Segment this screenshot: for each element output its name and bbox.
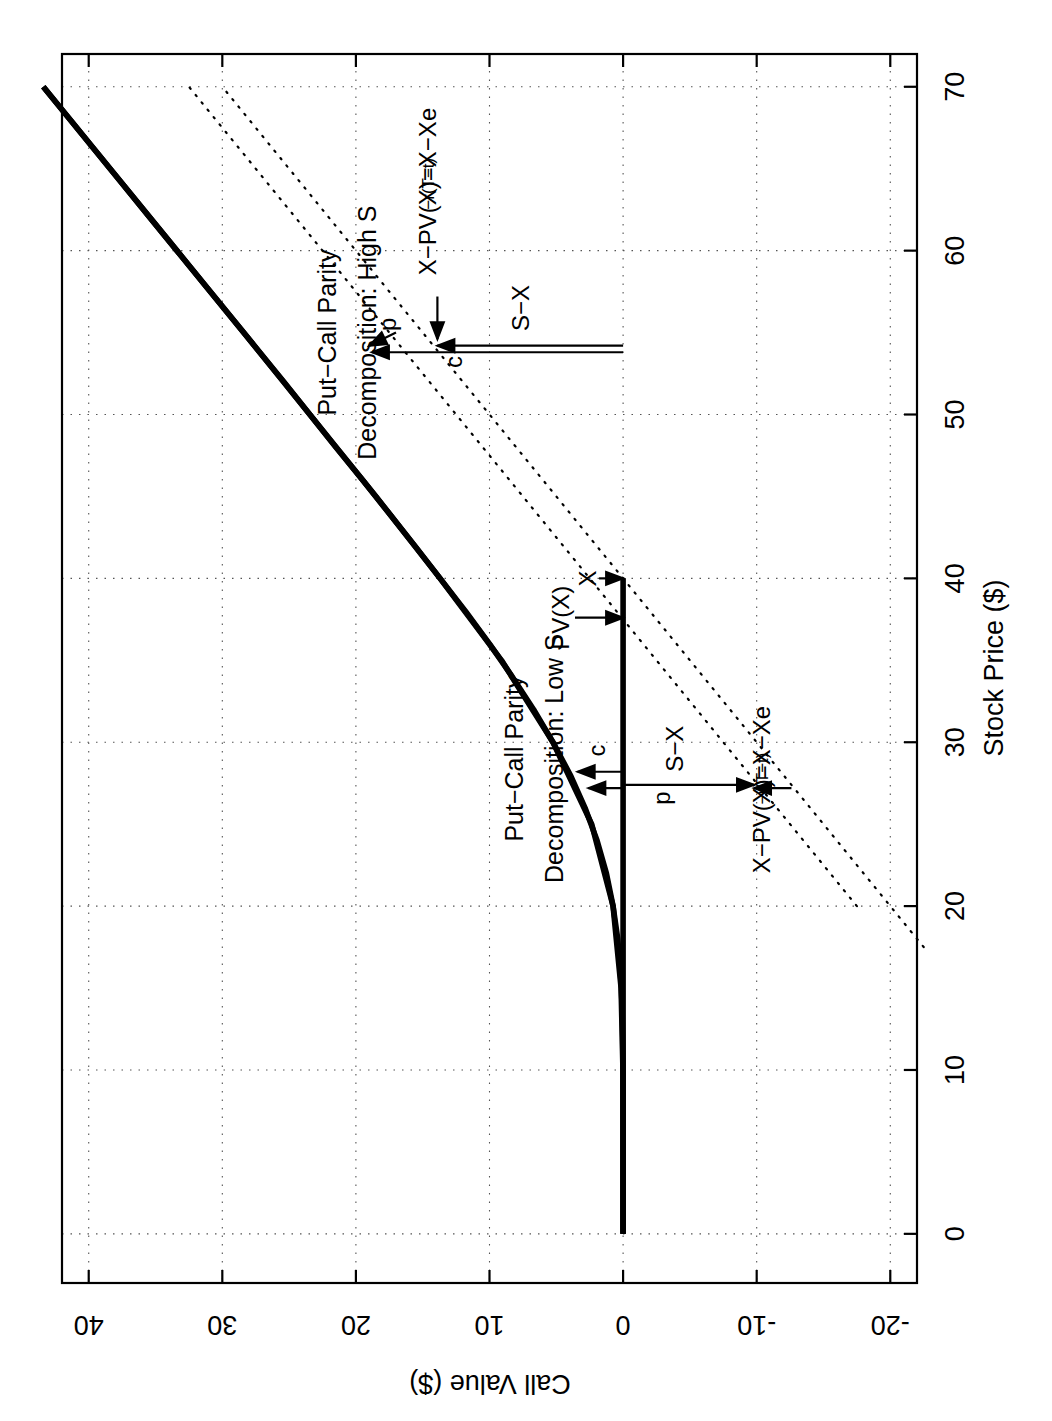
stock-tick-label-30: 30: [940, 727, 970, 757]
arrow-label-p-high: p: [374, 318, 401, 331]
arrow-label-pv-x: PV(X): [547, 586, 574, 650]
label-low-s-line2: Decomposition: Low S: [540, 634, 568, 883]
value-tick-label-40: 40: [74, 1310, 104, 1340]
value-tick-label--20: -20: [871, 1310, 910, 1340]
stock-tick-label-60: 60: [940, 236, 970, 266]
stock-tick-label-70: 70: [940, 72, 970, 102]
arrow-label-c-low: c: [583, 744, 610, 756]
value-tick-label-30: 30: [207, 1310, 237, 1340]
stock-tick-label-0: 0: [940, 1226, 970, 1241]
chart-figure: 010203040506070 -20-10010203040 Stock Pr…: [0, 0, 1052, 1421]
arrow-label-p-low: p: [648, 791, 675, 804]
stock-tick-label-50: 50: [940, 399, 970, 429]
label-low-s-line1: Put−Call Parity: [500, 675, 528, 842]
label-high-s-line1: Put−Call Parity: [313, 249, 341, 416]
value-tick-label-20: 20: [341, 1310, 371, 1340]
stock-tick-label-40: 40: [940, 563, 970, 593]
label-high-s-line2: Decomposition: High S: [353, 205, 381, 459]
x-axis-title: Stock Price ($): [979, 579, 1009, 756]
put-call-parity-plot: 010203040506070 -20-10010203040 Stock Pr…: [0, 0, 1052, 1421]
value-tick-label-10: 10: [474, 1310, 504, 1340]
y-axis-title: Call Value ($): [409, 1369, 571, 1399]
value-tick-label-0: 0: [616, 1310, 631, 1340]
stock-tick-label-10: 10: [940, 1055, 970, 1085]
arrow-label-s-minus-x-low: S−X: [661, 726, 688, 772]
value-tick-label--10: -10: [737, 1310, 776, 1340]
arrow-label-xpv-high-sup: −r(T−t): [419, 158, 438, 210]
stock-tick-label-20: 20: [940, 891, 970, 921]
arrow-label-x: X: [574, 570, 601, 586]
arrow-label-s-minus-x-high: S−X: [507, 285, 534, 331]
arrow-label-c-high: c: [440, 356, 467, 368]
arrow-label-xpv-low-sup: −r(T−t): [753, 753, 772, 805]
